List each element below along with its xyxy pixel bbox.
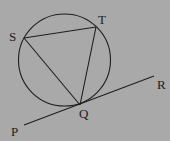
chord-st — [24, 27, 96, 38]
circle — [19, 14, 111, 106]
diagram-svg: S T Q P R — [0, 0, 170, 141]
label-s: S — [9, 29, 16, 44]
label-r: R — [157, 77, 166, 92]
chord-sq — [24, 38, 80, 105]
label-t: T — [98, 12, 106, 27]
label-p: P — [11, 124, 18, 139]
chord-tq — [80, 27, 96, 105]
label-q: Q — [79, 106, 89, 121]
geometry-diagram: S T Q P R — [0, 0, 170, 141]
